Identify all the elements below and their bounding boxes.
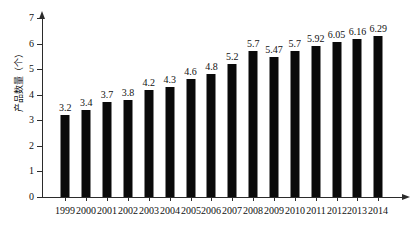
x-axis-tick [295,197,296,201]
bar-value-label: 4.2 [143,77,156,88]
bar-value-label: 3.7 [101,89,114,100]
y-axis-tick-label: 4 [8,90,34,100]
bar-chart: 产品数量（个） 01234567 3.23.43.73.84.24.34.64.… [0,0,418,230]
y-axis-tick-label: 2 [8,141,34,151]
bar-value-label: 4.6 [184,66,197,77]
bar-group[interactable]: 5.7 [243,18,264,197]
bar[interactable] [249,51,258,197]
bar[interactable] [165,87,174,197]
bar-value-label: 4.8 [205,61,218,72]
x-axis-tick [211,197,212,201]
bar-value-label: 5.7 [247,38,260,49]
bar-group[interactable]: 3.2 [55,18,76,197]
bar-group[interactable]: 6.16 [347,18,368,197]
x-axis-tick [274,197,275,201]
bar-value-label: 5.7 [289,38,302,49]
bar[interactable] [82,110,91,197]
bar-value-label: 3.8 [122,87,135,98]
bar[interactable] [103,102,112,197]
bar[interactable] [290,51,299,197]
bar-group[interactable]: 3.7 [97,18,118,197]
bar-value-label: 3.4 [80,97,93,108]
x-axis-tick [357,197,358,201]
bar[interactable] [270,57,279,197]
y-axis-tick [37,197,42,198]
bar-value-label: 6.05 [328,29,346,40]
x-axis-tick [232,197,233,201]
x-axis-tick [253,197,254,201]
bar[interactable] [311,46,320,197]
bar[interactable] [228,64,237,197]
x-axis-tick [86,197,87,201]
bar-group[interactable]: 5.92 [305,18,326,197]
x-axis-tick [191,197,192,201]
bar-group[interactable]: 4.8 [201,18,222,197]
y-axis-tick-label: 3 [8,115,34,125]
x-axis-tick [65,197,66,201]
y-axis-tick-label: 0 [8,192,34,202]
bar-value-label: 5.47 [265,44,283,55]
x-axis-tick [316,197,317,201]
bar[interactable] [374,36,383,197]
bar-value-label: 3.2 [59,102,72,113]
bar-group[interactable]: 5.47 [264,18,285,197]
bar-value-label: 5.2 [226,51,239,62]
x-axis-line [42,197,404,198]
bar-group[interactable]: 4.2 [138,18,159,197]
bar-group[interactable]: 5.7 [284,18,305,197]
bar[interactable] [123,100,132,197]
bar[interactable] [207,74,216,197]
x-axis-tick [170,197,171,201]
y-axis-tick-label: 7 [8,13,34,23]
x-axis-tick [107,197,108,201]
bar[interactable] [61,115,70,197]
x-axis-tick [337,197,338,201]
bar-value-label: 5.92 [307,33,325,44]
bar-value-label: 4.3 [163,74,176,85]
x-axis-tick [128,197,129,201]
bar-group[interactable]: 4.3 [159,18,180,197]
bar-group[interactable]: 3.8 [118,18,139,197]
plot-area: 3.23.43.73.84.24.34.64.85.25.75.475.75.9… [42,18,404,197]
bar-group[interactable]: 3.4 [76,18,97,197]
bar[interactable] [332,42,341,197]
bar[interactable] [144,90,153,197]
bar-value-label: 6.29 [370,23,388,34]
y-axis-tick-label: 6 [8,39,34,49]
bar-group[interactable]: 6.29 [368,18,389,197]
bar-group[interactable]: 6.05 [326,18,347,197]
bar-group[interactable]: 5.2 [222,18,243,197]
x-axis-tick-label: 2014 [363,205,393,216]
y-axis-tick-label: 1 [8,166,34,176]
bar[interactable] [186,79,195,197]
bar-value-label: 6.16 [349,26,367,37]
bar-group[interactable]: 4.6 [180,18,201,197]
x-axis-tick [149,197,150,201]
x-axis-tick [378,197,379,201]
y-axis-tick-label: 5 [8,64,34,74]
bar[interactable] [353,39,362,197]
